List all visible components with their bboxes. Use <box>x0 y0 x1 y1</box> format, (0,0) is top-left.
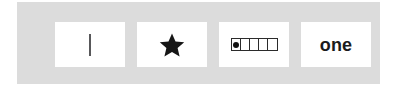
card-five-frame[interactable] <box>219 22 289 67</box>
card-star[interactable] <box>137 22 207 67</box>
panel-background: one <box>17 2 380 84</box>
number-word-label: one <box>320 36 353 54</box>
card-tally[interactable] <box>55 22 125 67</box>
dot-icon <box>233 42 239 48</box>
tally-stroke-icon <box>89 34 91 56</box>
card-word[interactable]: one <box>301 22 371 67</box>
frame-cell-empty <box>268 39 277 50</box>
frame-cell-empty <box>250 39 259 50</box>
frame-cell-empty <box>241 39 250 50</box>
number-representation-strip: one <box>0 0 397 88</box>
five-frame-icon <box>231 38 278 51</box>
frame-cell-empty <box>259 39 268 50</box>
star-icon <box>159 32 185 58</box>
frame-cell-filled <box>232 39 241 50</box>
card-row: one <box>55 22 371 67</box>
